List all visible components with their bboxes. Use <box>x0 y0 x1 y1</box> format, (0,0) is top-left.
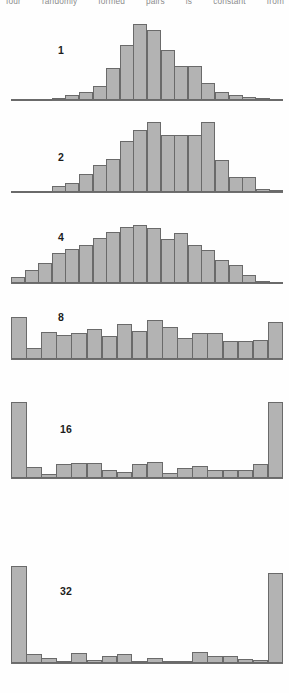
histogram-bar <box>253 660 269 663</box>
histogram-bar <box>238 659 254 663</box>
histogram-bar <box>11 566 27 663</box>
histogram-bar <box>207 656 223 663</box>
histogram-bar <box>223 656 239 663</box>
histogram-bar <box>71 653 87 663</box>
histogram-bar <box>87 660 103 663</box>
histogram-bar <box>162 661 178 663</box>
histogram-bar <box>56 661 72 663</box>
histogram-bar <box>132 661 148 663</box>
histogram-bar <box>268 573 284 663</box>
baseline-axis <box>11 663 283 664</box>
histogram-bar <box>41 658 57 663</box>
panel-label-32: 32 <box>60 586 72 597</box>
figure-page: four randomly formed pairs is constant f… <box>0 0 289 693</box>
histogram-bar <box>192 652 208 663</box>
histogram-bar <box>177 661 193 663</box>
histogram-panel: 32 <box>0 0 289 693</box>
histogram-bar <box>117 654 133 663</box>
histogram-bar <box>147 658 163 663</box>
histogram-bar <box>26 654 42 663</box>
histogram-bar <box>102 656 118 663</box>
